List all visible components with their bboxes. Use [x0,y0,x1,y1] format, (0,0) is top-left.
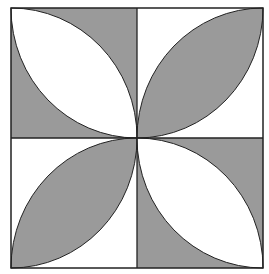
quadrant-top-right [137,8,263,138]
quadrant-bottom-right [137,138,263,268]
lens-pattern-diagram [0,0,269,274]
quadrant-bottom-left [11,138,137,268]
quadrant-top-left [11,8,137,138]
